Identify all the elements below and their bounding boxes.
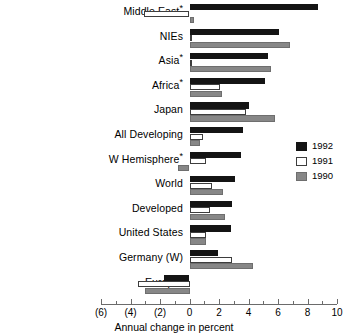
bar-chart: Middle East*NIEsAsia*Africa*JapanAll Dev… [0, 0, 348, 336]
bar-1991 [190, 158, 206, 164]
bar-1991 [144, 11, 190, 17]
legend-item: 1991 [296, 155, 348, 167]
legend-swatch-1992 [296, 142, 307, 151]
bar-1992 [190, 201, 233, 207]
x-tick-label: (2) [145, 307, 175, 318]
bar-1991 [190, 232, 206, 238]
bar-1992 [190, 250, 218, 256]
bar-1990 [190, 238, 206, 244]
bar-1992 [164, 275, 189, 281]
bar-1991 [190, 183, 212, 189]
bar-1990 [190, 140, 200, 146]
x-axis-line [101, 304, 337, 305]
bar-1990 [190, 91, 222, 97]
x-axis-minor-tick [175, 301, 176, 304]
x-axis-minor-tick [263, 301, 264, 304]
x-axis-major-tick [308, 299, 309, 304]
x-axis-minor-tick [116, 301, 117, 304]
x-axis-major-tick [337, 299, 338, 304]
x-axis-minor-tick [204, 301, 205, 304]
x-axis-minor-tick [293, 301, 294, 304]
chart-legend: 199219911990 [296, 140, 348, 185]
bar-1990 [178, 165, 190, 171]
x-tick-label: 2 [204, 307, 234, 318]
bar-1991 [190, 35, 192, 41]
x-axis-title: Annual change in percent [0, 321, 348, 333]
bar-1991 [190, 207, 211, 213]
bar-1992 [190, 29, 280, 35]
bar-1991 [190, 60, 192, 66]
legend-label: 1990 [312, 171, 333, 181]
x-axis-minor-tick [145, 301, 146, 304]
x-axis-major-tick [190, 299, 191, 304]
legend-label: 1991 [312, 156, 333, 166]
x-tick-label: (4) [116, 307, 146, 318]
x-axis-major-tick [278, 299, 279, 304]
bar-1992 [190, 127, 243, 133]
x-axis-minor-tick [234, 301, 235, 304]
bar-1991 [138, 281, 190, 287]
bar-1991 [190, 84, 221, 90]
bar-1990 [190, 66, 271, 72]
x-axis-major-tick [219, 299, 220, 304]
bar-1990 [190, 115, 276, 121]
bar-1992 [190, 53, 268, 59]
x-axis-major-tick [249, 299, 250, 304]
x-tick-label: 6 [263, 307, 293, 318]
bar-1990 [190, 214, 225, 220]
bar-1992 [190, 102, 249, 108]
x-axis-major-tick [101, 299, 102, 304]
bar-1990 [190, 42, 290, 48]
bar-1992 [190, 4, 318, 10]
bar-1992 [190, 152, 242, 158]
x-tick-label: 8 [293, 307, 323, 318]
x-axis-minor-tick [322, 301, 323, 304]
bar-1992 [190, 225, 231, 231]
x-tick-label: 0 [175, 307, 205, 318]
legend-swatch-1991 [296, 157, 307, 166]
bar-1991 [190, 134, 203, 140]
x-tick-label: (6) [86, 307, 116, 318]
legend-swatch-1990 [296, 172, 307, 181]
bar-1990 [190, 17, 194, 23]
bar-1990 [190, 189, 224, 195]
bar-1991 [190, 109, 246, 115]
x-tick-label: 4 [234, 307, 264, 318]
bar-1991 [190, 257, 233, 263]
bar-1992 [190, 78, 265, 84]
bar-1990 [190, 263, 253, 269]
x-axis-major-tick [131, 299, 132, 304]
legend-item: 1990 [296, 170, 348, 182]
legend-label: 1992 [312, 141, 333, 151]
x-tick-label: 10 [322, 307, 348, 318]
bar-1990 [145, 288, 189, 294]
legend-item: 1992 [296, 140, 348, 152]
bar-1992 [190, 176, 236, 182]
x-axis-major-tick [160, 299, 161, 304]
